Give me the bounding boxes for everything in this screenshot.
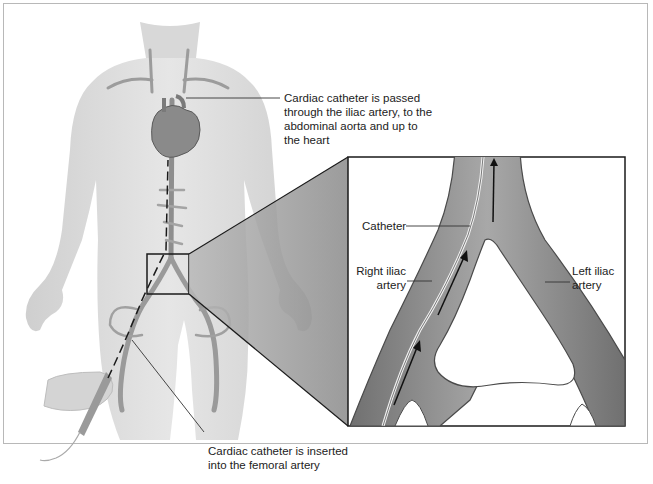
label-right-iliac-line-1: Right iliac: [354, 264, 406, 278]
callout-femoral-line-2: into the femoral artery: [208, 458, 348, 472]
callout-heart-line-1: Cardiac catheter is passed: [284, 91, 432, 105]
label-right-iliac-artery: Right iliac artery: [354, 264, 406, 292]
callout-heart: Cardiac catheter is passed through the i…: [284, 91, 432, 147]
label-right-iliac-line-2: artery: [354, 278, 406, 292]
label-left-iliac-line-2: artery: [572, 278, 614, 292]
callout-heart-line-2: through the iliac artery, to the: [284, 105, 432, 119]
label-left-iliac-artery: Left iliac artery: [572, 264, 614, 292]
label-catheter: Catheter: [362, 219, 406, 233]
callout-heart-line-4: the heart: [284, 133, 432, 147]
anatomy-illustration: [0, 0, 653, 484]
callout-heart-line-3: abdominal aorta and up to: [284, 119, 432, 133]
callout-femoral: Cardiac catheter is inserted into the fe…: [208, 444, 348, 472]
label-left-iliac-line-1: Left iliac: [572, 264, 614, 278]
callout-femoral-line-1: Cardiac catheter is inserted: [208, 444, 348, 458]
